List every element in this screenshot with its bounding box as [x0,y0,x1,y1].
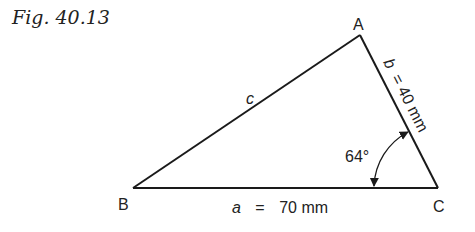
angle-arc-c [374,132,408,186]
side-a-label: a = 70 mm [232,199,328,216]
side-b-name: b [380,56,399,72]
side-b [360,35,438,188]
side-a-eq: = [255,199,264,216]
vertex-label-c: C [433,198,445,215]
vertex-label-b: B [118,196,129,213]
side-b-label: b = 40 mm [380,56,431,135]
side-a-name: a [232,199,241,216]
vertex-label-a: A [353,16,364,33]
side-c [133,35,360,188]
angle-c-label: 64° [345,148,369,165]
triangle-diagram: A B C c b = 40 mm a = 70 mm 64° [0,0,475,232]
side-c-label: c [246,90,254,107]
side-a-value: 70 mm [279,199,328,216]
